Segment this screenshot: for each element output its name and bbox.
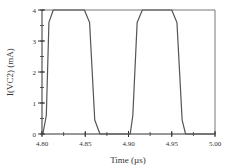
y-tick-label: 3: [33, 38, 37, 46]
y-axis-ticks: 01234: [33, 7, 46, 139]
x-tick-label: 4.95: [166, 140, 179, 148]
series-line: [42, 10, 215, 134]
y-axis-label: I(VC2) (mA): [5, 48, 15, 96]
line-chart: 01234 4.804.854.904.955.00 Time (µs) I(V…: [0, 0, 232, 167]
y-tick-label: 4: [33, 7, 37, 15]
x-tick-label: 5.00: [209, 140, 222, 148]
x-tick-label: 4.80: [36, 140, 49, 148]
x-tick-label: 4.85: [79, 140, 92, 148]
series-i-vc2: [42, 10, 215, 134]
y-tick-label: 0: [33, 131, 37, 139]
plot-frame: [42, 10, 215, 134]
y-tick-label: 1: [33, 100, 37, 108]
x-tick-label: 4.90: [122, 140, 135, 148]
x-axis-label: Time (µs): [110, 155, 146, 165]
y-tick-label: 2: [33, 69, 37, 77]
